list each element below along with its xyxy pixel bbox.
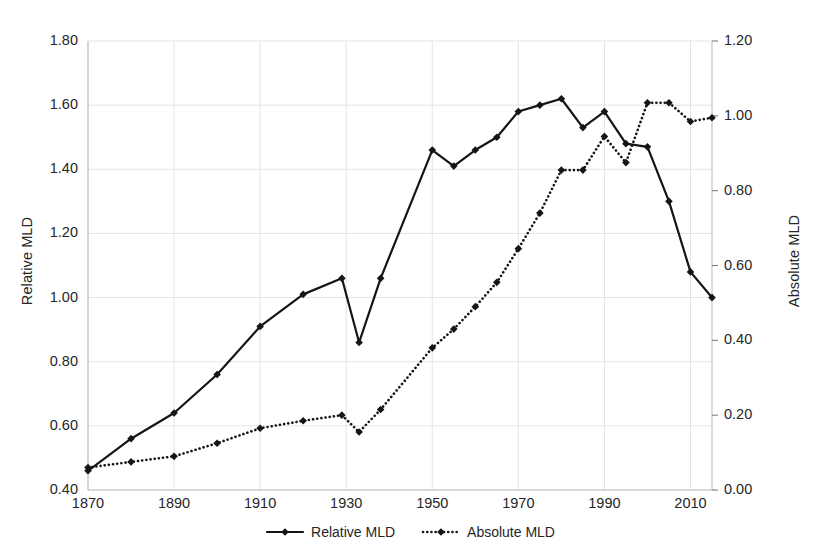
data-point-marker xyxy=(471,303,479,311)
x-axis-tick-label: 1890 xyxy=(144,495,204,511)
data-point-marker xyxy=(355,339,363,347)
data-point-marker xyxy=(708,114,716,122)
y-axis-left-tick-label: 1.00 xyxy=(26,289,78,305)
data-point-marker xyxy=(536,101,544,109)
data-point-marker xyxy=(170,453,178,461)
x-axis-tick-label: 1910 xyxy=(230,495,290,511)
y-axis-left-tick-label: 1.40 xyxy=(26,160,78,176)
y-axis-right-tick-label: 0.20 xyxy=(724,406,778,422)
y-axis-right-tick-label: 0.40 xyxy=(724,331,778,347)
x-axis-tick-label: 1990 xyxy=(574,495,634,511)
data-point-marker xyxy=(377,275,385,283)
y-axis-left-tick-label: 0.80 xyxy=(26,353,78,369)
y-axis-left-tick-label: 0.60 xyxy=(26,417,78,433)
chart-container: Relative MLD Absolute MLD 0.400.600.801.… xyxy=(0,0,820,560)
plot-frame xyxy=(88,41,712,490)
data-point-marker xyxy=(665,198,673,206)
data-point-marker xyxy=(558,166,566,174)
x-axis-tick-label: 1870 xyxy=(58,495,118,511)
x-axis-tick-label: 2010 xyxy=(660,495,720,511)
data-point-marker xyxy=(536,209,544,217)
y-axis-left-tick-label: 1.80 xyxy=(26,32,78,48)
y-axis-right-tick-label: 1.20 xyxy=(724,32,778,48)
y-axis-right-tick-label: 0.80 xyxy=(724,182,778,198)
data-point-marker xyxy=(338,275,346,283)
data-point-marker xyxy=(213,439,221,447)
legend-item[interactable]: Relative MLD xyxy=(265,524,395,540)
legend-label: Absolute MLD xyxy=(467,524,555,540)
legend-item[interactable]: Absolute MLD xyxy=(421,524,555,540)
gridlines xyxy=(88,41,712,490)
plot-area xyxy=(0,0,820,560)
data-point-marker xyxy=(299,417,307,425)
legend-label: Relative MLD xyxy=(311,524,395,540)
data-point-marker xyxy=(644,143,652,151)
chart-legend: Relative MLDAbsolute MLD xyxy=(0,524,820,540)
legend-swatch-solid xyxy=(265,525,305,539)
y-axis-right-tick-label: 1.00 xyxy=(724,107,778,123)
tick-marks xyxy=(712,41,718,490)
series-line-absolute-mld xyxy=(88,103,712,468)
y-axis-right-tick-label: 0.60 xyxy=(724,257,778,273)
y-axis-left-tick-label: 1.60 xyxy=(26,96,78,112)
data-point-marker xyxy=(127,458,135,466)
data-series-layer xyxy=(84,95,716,475)
y-axis-right-tick-label: 0.00 xyxy=(724,481,778,497)
x-axis-tick-label: 1930 xyxy=(316,495,376,511)
legend-swatch-dotted xyxy=(421,525,461,539)
x-axis-tick-label: 1970 xyxy=(488,495,548,511)
y-axis-left-tick-label: 1.20 xyxy=(26,224,78,240)
x-axis-tick-label: 1950 xyxy=(402,495,462,511)
